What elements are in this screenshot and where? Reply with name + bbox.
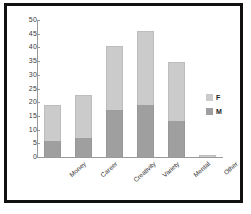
- y-tick-mark: [37, 75, 40, 76]
- y-tick-mark: [37, 157, 40, 158]
- bar-stack: [106, 20, 123, 157]
- chart-legend: FM: [206, 92, 238, 120]
- y-tick-label: 0: [7, 152, 37, 162]
- bar-stack: [199, 20, 216, 157]
- bar-segment-f: [199, 155, 216, 157]
- y-tick-mark: [37, 130, 40, 131]
- bar-segment-m: [106, 110, 123, 157]
- x-tick-label: Other: [222, 160, 239, 176]
- y-tick-label: 45: [7, 29, 37, 39]
- bar-segment-m: [137, 105, 154, 157]
- y-tick-label: 10: [7, 125, 37, 135]
- bar-segment-f: [168, 62, 185, 121]
- x-tick-label: Variety: [161, 160, 180, 178]
- x-tick-label: Money: [68, 160, 87, 178]
- bar-segment-f: [137, 31, 154, 105]
- y-tick-mark: [37, 20, 40, 21]
- y-tick-mark: [37, 102, 40, 103]
- y-tick-mark: [37, 89, 40, 90]
- y-tick-mark: [37, 143, 40, 144]
- legend-label: F: [216, 94, 220, 101]
- y-tick-mark: [37, 47, 40, 48]
- y-tick-label: 15: [7, 111, 37, 121]
- bar-chart: 05101520253035404550 MoneyCareerCreativi…: [7, 6, 240, 200]
- y-tick-label: 20: [7, 97, 37, 107]
- bar-segment-f: [75, 95, 92, 137]
- y-tick-mark: [37, 61, 40, 62]
- bar-segment-m: [168, 121, 185, 157]
- y-tick-label: 30: [7, 70, 37, 80]
- bar-stack: [44, 20, 61, 157]
- y-tick-label: 40: [7, 42, 37, 52]
- bar-segment-f: [44, 105, 61, 141]
- y-tick-label: 35: [7, 56, 37, 66]
- bar-stack: [75, 20, 92, 157]
- bar-segment-f: [106, 46, 123, 110]
- legend-item: M: [206, 106, 238, 117]
- y-tick-label: 5: [7, 138, 37, 148]
- chart-frame: 05101520253035404550 MoneyCareerCreativi…: [4, 3, 243, 203]
- legend-swatch-icon: [206, 94, 213, 101]
- legend-item: F: [206, 92, 238, 103]
- x-tick-label: Mental: [192, 160, 211, 178]
- x-tick-label: Career: [99, 160, 118, 179]
- legend-swatch-icon: [206, 108, 213, 115]
- bar-stack: [137, 20, 154, 157]
- bar-segment-m: [75, 138, 92, 157]
- x-axis-line: [37, 157, 223, 158]
- y-tick-label: 25: [7, 84, 37, 94]
- bar-segment-m: [44, 141, 61, 157]
- y-tick-label: 50: [7, 15, 37, 25]
- y-tick-mark: [37, 116, 40, 117]
- legend-label: M: [216, 108, 222, 115]
- x-tick-label: Creativity: [131, 160, 156, 183]
- y-tick-mark: [37, 34, 40, 35]
- bar-stack: [168, 20, 185, 157]
